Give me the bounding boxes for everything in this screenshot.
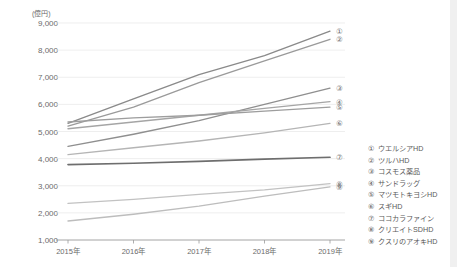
series-end-marker: ③ xyxy=(336,84,343,93)
legend-item-label: ウエルシアHD xyxy=(378,144,423,153)
legend-item-number: ② xyxy=(368,155,378,167)
x-axis-tick-label: 2017年 xyxy=(187,245,211,256)
legend-item: ②ツルハHD xyxy=(368,155,437,167)
series-line xyxy=(68,184,330,204)
legend-item-number: ⑤ xyxy=(368,189,378,201)
series-end-marker: ⑨ xyxy=(336,182,343,191)
legend-item: ⑤マツモトキヨシHD xyxy=(368,189,437,201)
series-line xyxy=(68,187,330,221)
legend-item-number: ④ xyxy=(368,178,378,190)
legend-item-label: コスモス薬品 xyxy=(378,167,420,176)
legend-item-number: ⑥ xyxy=(368,201,378,213)
series-end-marker: ⑥ xyxy=(336,119,343,128)
series-line xyxy=(68,39,330,126)
legend-item-label: ツルハHD xyxy=(378,156,409,165)
line-chart: (億円) 1,0002,0003,0004,0005,0006,0007,000… xyxy=(0,0,457,267)
series-end-marker: ② xyxy=(336,35,343,44)
chart-legend: ①ウエルシアHD②ツルハHD③コスモス薬品④サンドラッグ⑤マツモトキヨシHD⑥ス… xyxy=(368,143,437,247)
legend-item-number: ⑦ xyxy=(368,213,378,225)
legend-item: ⑧クリエイトSDHD xyxy=(368,224,437,236)
legend-item-number: ⑨ xyxy=(368,236,378,248)
legend-item: ④サンドラッグ xyxy=(368,178,437,190)
legend-item-label: マツモトキヨシHD xyxy=(378,190,437,199)
legend-item: ⑥スギHD xyxy=(368,201,437,213)
legend-item: ⑨クスリのアオキHD xyxy=(368,236,437,248)
legend-item-label: スギHD xyxy=(378,202,402,211)
right-edge-strip xyxy=(450,0,457,267)
legend-item-number: ① xyxy=(368,143,378,155)
legend-item-label: クスリのアオキHD xyxy=(378,237,437,246)
legend-item: ①ウエルシアHD xyxy=(368,143,437,155)
series-end-marker: ⑤ xyxy=(336,103,343,112)
legend-item: ③コスモス薬品 xyxy=(368,166,437,178)
legend-item: ⑦ココカラファイン xyxy=(368,213,437,225)
series-end-marker: ⑦ xyxy=(336,153,343,162)
legend-item-label: サンドラッグ xyxy=(378,179,420,188)
x-axis-tick-label: 2016年 xyxy=(122,245,146,256)
x-axis-tick-label: 2019年 xyxy=(318,245,342,256)
series-line xyxy=(68,88,330,146)
legend-item-number: ③ xyxy=(368,166,378,178)
legend-item-label: ココカラファイン xyxy=(378,214,434,223)
x-axis-tick-label: 2015年 xyxy=(56,245,80,256)
x-axis-tick-label: 2018年 xyxy=(253,245,277,256)
legend-item-label: クリエイトSDHD xyxy=(378,225,433,234)
legend-item-number: ⑧ xyxy=(368,224,378,236)
